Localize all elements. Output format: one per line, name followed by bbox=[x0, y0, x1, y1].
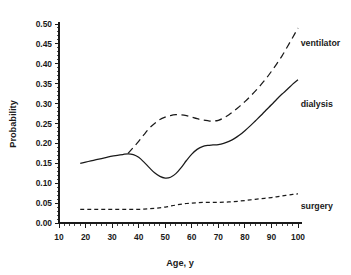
x-tick-label: 60 bbox=[187, 232, 197, 242]
y-tick-label: 0.10 bbox=[36, 178, 53, 188]
axes-group bbox=[59, 22, 302, 223]
y-tick-label: 0.15 bbox=[36, 158, 53, 168]
x-tick-label: 30 bbox=[107, 232, 117, 242]
x-tick-label: 10 bbox=[54, 232, 64, 242]
chart-figure: 0.000.050.100.150.200.250.300.350.400.45… bbox=[0, 0, 351, 275]
tick-marks-group bbox=[55, 24, 298, 228]
y-tick-label: 0.05 bbox=[36, 198, 53, 208]
series-line-surgery bbox=[80, 194, 298, 210]
data-series-group bbox=[80, 28, 298, 210]
x-axis-title: Age, y bbox=[166, 258, 194, 268]
series-label-dialysis: dialysis bbox=[301, 99, 333, 109]
x-tick-label: 40 bbox=[134, 232, 144, 242]
x-tick-label: 20 bbox=[81, 232, 91, 242]
x-tick-label: 80 bbox=[240, 232, 250, 242]
x-tick-label: 70 bbox=[214, 232, 224, 242]
x-tick-label: 50 bbox=[161, 232, 171, 242]
y-tick-label: 0.40 bbox=[36, 59, 53, 69]
x-tick-label: 90 bbox=[267, 232, 277, 242]
y-tick-label: 0.20 bbox=[36, 138, 53, 148]
y-tick-label: 0.25 bbox=[36, 119, 53, 129]
y-tick-label: 0.45 bbox=[36, 39, 53, 49]
probability-vs-age-line-chart: 0.000.050.100.150.200.250.300.350.400.45… bbox=[0, 0, 351, 275]
series-inline-labels: ventilatordialysissurgery bbox=[301, 38, 341, 211]
y-tick-label: 0.35 bbox=[36, 79, 53, 89]
y-tick-label: 0.50 bbox=[36, 19, 53, 29]
y-tick-label: 0.30 bbox=[36, 99, 53, 109]
x-axis-tick-labels: 102030405060708090100 bbox=[54, 232, 305, 242]
x-tick-label: 100 bbox=[291, 232, 305, 242]
y-axis-tick-labels: 0.000.050.100.150.200.250.300.350.400.45… bbox=[36, 19, 53, 228]
series-line-ventilator bbox=[128, 28, 298, 153]
series-label-ventilator: ventilator bbox=[301, 38, 341, 48]
y-axis-title: Probability bbox=[8, 99, 18, 147]
y-tick-label: 0.00 bbox=[36, 218, 53, 228]
series-line-dialysis bbox=[80, 80, 298, 178]
series-label-surgery: surgery bbox=[301, 201, 333, 211]
